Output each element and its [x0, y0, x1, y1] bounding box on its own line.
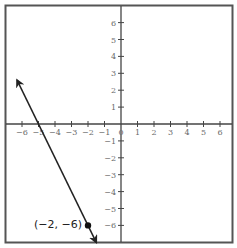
x-tick-label: 4 [184, 128, 189, 137]
y-tick-label: 2 [111, 86, 116, 95]
y-tick-label: 3 [111, 69, 116, 78]
y-tick-label: −1 [104, 137, 116, 146]
points-layer: (−2, −6) [34, 218, 91, 231]
x-tick-label: 0 [118, 128, 123, 137]
x-tick-label: −2 [82, 128, 94, 137]
y-tick-label: −2 [104, 154, 116, 163]
x-tick-label: −6 [16, 128, 28, 137]
x-tick-label: 5 [201, 128, 206, 137]
y-tick-label: −4 [104, 188, 116, 197]
coordinate-plane: −6−5−4−3−2−10123456 −6−5−4−3−2−1123456 (… [0, 0, 237, 248]
point-label: (−2, −6) [34, 218, 82, 231]
y-tick-label: 1 [111, 103, 116, 112]
x-tick-label: 6 [217, 128, 222, 137]
x-tick-label: −4 [49, 128, 61, 137]
y-tick-label: 5 [111, 36, 116, 45]
y-tick-label: −3 [104, 171, 116, 180]
data-point [85, 222, 91, 228]
y-tick-label: 4 [111, 52, 116, 61]
y-tick-label: −5 [104, 205, 116, 214]
x-tick-label: 3 [168, 128, 173, 137]
x-tick-label: −3 [66, 128, 78, 137]
y-tick-label: −6 [104, 221, 116, 230]
axes [6, 6, 232, 242]
y-tick-label: 6 [111, 19, 116, 28]
x-tick-label: 1 [135, 128, 140, 137]
x-tick-label: 2 [151, 128, 156, 137]
x-tick-label: −1 [99, 128, 111, 137]
